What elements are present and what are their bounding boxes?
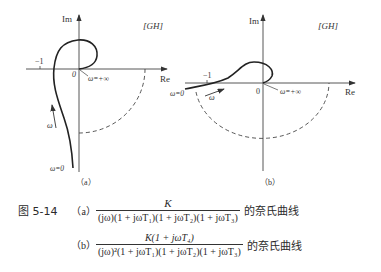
sublabel-b: （b） — [260, 178, 280, 187]
caption-row-b: （b） K(1 + jωT₄) (jω)²(1 + jωT₁)(1 + jωT₂… — [71, 232, 302, 257]
plane-label-a: [GH] — [143, 21, 164, 31]
omega-inf-a: ω=+∞ — [88, 74, 109, 83]
transfer-function-a: K (jω)(1 + jωT₁)(1 + jωT₂)(1 + jωT₃) — [96, 197, 240, 223]
plot-a: Im Re [GH] −1 0 ω=+∞ ω ω=0 （a） — [26, 14, 170, 187]
caption-b-label: （b） — [71, 237, 96, 252]
minus-one-a: −1 — [35, 57, 44, 66]
omega-label-a: ω — [47, 121, 53, 130]
transfer-function-b: K(1 + jωT₄) (jω)²(1 + jωT₁)(1 + jωT₂)(1 … — [96, 232, 243, 257]
dashed-arc-b — [196, 83, 329, 138]
caption-row-a: 图 5-14 （a） K (jω)(1 + jωT₁)(1 + jωT₂)(1 … — [18, 197, 299, 223]
nyquist-curve-a — [54, 40, 97, 168]
plot-b: Im Re [GH] −1 0 ω=+∞ ω ω=0 （b） — [170, 15, 355, 187]
omega-zero-b: ω=0 — [170, 89, 184, 98]
omega-zero-a: ω=0 — [50, 164, 64, 173]
caption-a-suffix: 的奈氏曲线 — [244, 202, 299, 218]
origin-b: 0 — [256, 87, 260, 96]
figure-number: 图 5-14 — [18, 202, 57, 218]
omega-inf-b: ω=+∞ — [280, 87, 301, 96]
re-label-b: Re — [345, 87, 355, 97]
im-label-a: Im — [62, 14, 72, 24]
numerator-b: K(1 + jωT₄) — [143, 232, 196, 244]
caption-b-suffix: 的奈氏曲线 — [247, 237, 302, 253]
minus-one-b: −1 — [203, 71, 212, 80]
caption-a-label: （a） — [71, 203, 95, 218]
sublabel-a: （a） — [76, 178, 96, 187]
denominator-a: (jω)(1 + jωT₁)(1 + jωT₂)(1 + jωT₃) — [96, 210, 240, 223]
origin-a: 0 — [72, 70, 76, 79]
im-label-b: Im — [249, 16, 259, 26]
numerator-a: K — [162, 197, 173, 210]
re-label-a: Re — [160, 74, 170, 84]
nyquist-curve-b — [185, 62, 272, 89]
plane-label-b: [GH] — [318, 21, 339, 31]
denominator-b: (jω)²(1 + jωT₁)(1 + jωT₂)(1 + jωT₃) — [96, 244, 243, 257]
omega-label-b: ω — [209, 93, 215, 102]
